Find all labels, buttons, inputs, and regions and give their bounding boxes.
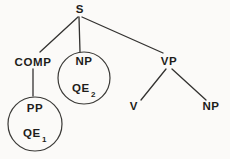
syntax-tree-canvas: S COMP NP QE 2 VP PP QE 1 V NP [0, 0, 230, 159]
node-np-object-label: NP [202, 100, 219, 112]
syntax-tree-diagram: S COMP NP QE 2 VP PP QE 1 V NP [0, 0, 230, 159]
edge-s-np [79, 17, 80, 52]
edge-vp-v [141, 69, 166, 100]
edge-vp-np [172, 69, 206, 100]
qe1-subscript: 1 [42, 135, 47, 144]
node-s-label: S [76, 3, 84, 15]
node-comp-label: COMP [15, 56, 52, 68]
qe2-subscript: 2 [91, 90, 96, 99]
node-vp-label: VP [161, 55, 178, 67]
node-pp-label: PP [27, 102, 44, 114]
edge-s-comp [40, 17, 78, 52]
node-v-label: V [130, 100, 138, 112]
edge-s-vp [82, 17, 163, 53]
qe2-label: QE [72, 82, 90, 94]
node-np-subject-label: NP [75, 55, 92, 67]
qe1-label: QE [23, 127, 41, 139]
